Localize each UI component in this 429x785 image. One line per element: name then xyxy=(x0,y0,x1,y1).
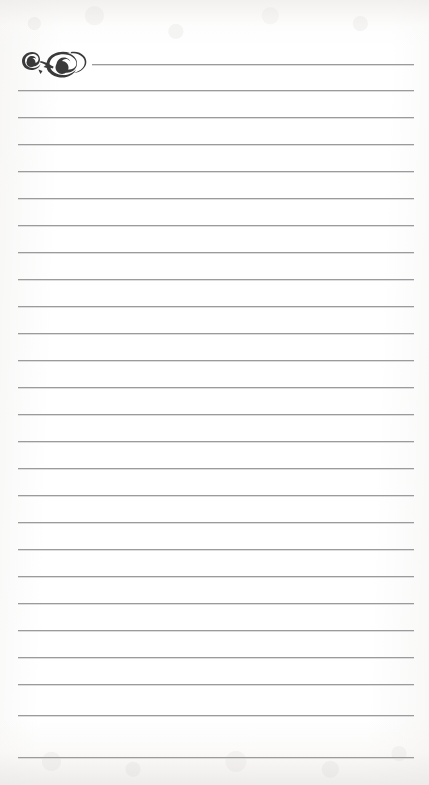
stationery-page xyxy=(0,0,429,785)
writing-area[interactable] xyxy=(0,0,429,785)
document-body-text xyxy=(0,0,1,1)
